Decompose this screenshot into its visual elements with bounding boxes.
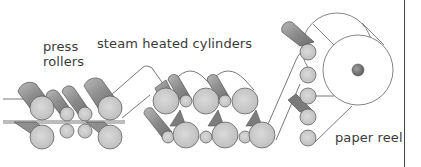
press-rollers-label-line2: rollers — [43, 54, 84, 69]
paper-reel-label: paper reel — [335, 130, 403, 145]
reel-hub-icon — [352, 64, 364, 76]
press-rollers-label-line1: press — [43, 39, 84, 54]
paper-reel — [302, 13, 393, 120]
frame-border-right — [404, 0, 405, 167]
steam-heated-cylinders-label: steam heated cylinders — [97, 36, 252, 51]
calender-roller-stack — [282, 22, 316, 146]
press-rollers — [14, 78, 122, 149]
press-rollers-label: press rollers — [43, 39, 84, 69]
